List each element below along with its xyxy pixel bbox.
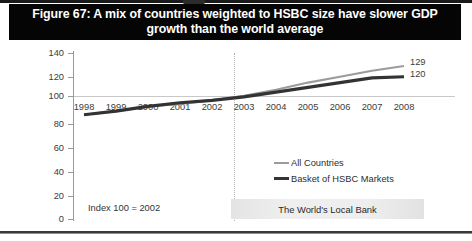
- hsbc-slogan-text: The World's Local Bank: [278, 204, 377, 215]
- figure-title: Figure 67: A mix of countries weighted t…: [19, 7, 451, 37]
- end-label-hsbc-basket: 120: [410, 69, 426, 79]
- legend-item-hsbc-basket[interactable]: Basket of HSBC Markets: [274, 172, 394, 185]
- legend-label-hsbc-basket: Basket of HSBC Markets: [291, 174, 394, 184]
- legend-line-icon-all-countries: [274, 162, 289, 164]
- legend-label-all-countries: All Countries: [291, 158, 344, 168]
- bottom-divider-shadow: [0, 233, 472, 234]
- end-label-all-countries: 129: [410, 57, 426, 67]
- legend: All Countries Basket of HSBC Markets: [274, 156, 394, 188]
- hsbc-slogan-banner: The World's Local Bank: [231, 199, 424, 219]
- top-edge-artifact: [0, 0, 472, 3]
- figure-title-banner: Figure 67: A mix of countries weighted t…: [9, 4, 461, 40]
- index-base-note: Index 100 = 2002: [88, 203, 160, 213]
- legend-item-all-countries[interactable]: All Countries: [274, 156, 394, 169]
- legend-line-icon-hsbc-basket: [274, 177, 289, 180]
- line-basket-of-hsbc-markets: [84, 77, 404, 115]
- chart-area: 140 120 100 80 60 40 20 0 1998 1999 2000…: [0, 40, 472, 232]
